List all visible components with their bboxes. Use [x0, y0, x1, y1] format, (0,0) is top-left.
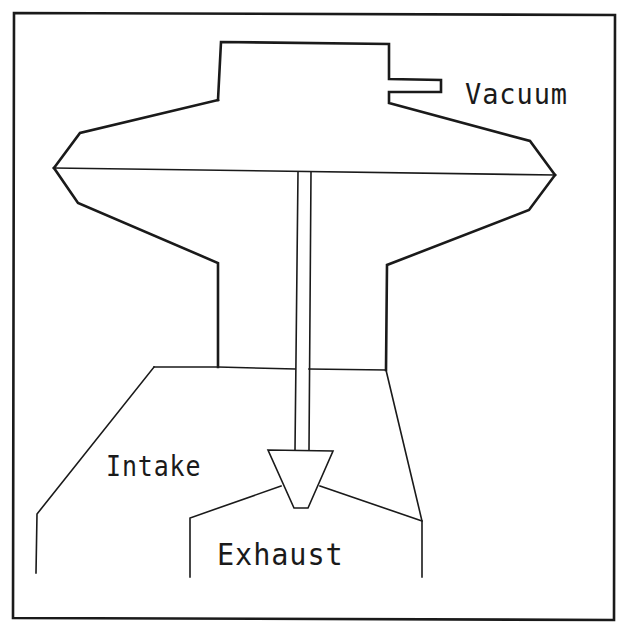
intake-passage-right-wall [386, 370, 422, 577]
intake-label: Intake [106, 452, 201, 481]
valve-stem-right [309, 172, 311, 450]
vacuum-chamber-upper-left [54, 100, 218, 168]
exhaust-label: Exhaust [217, 539, 344, 570]
exhaust-roof-right [320, 486, 422, 521]
vacuum-label: Vacuum [465, 80, 568, 109]
valve-head [268, 450, 333, 508]
intake-passage-top [154, 367, 295, 369]
intake-passage-top-right [309, 369, 386, 370]
diagram-canvas: Vacuum Intake Exhaust [0, 0, 628, 626]
valve-stem-left [295, 172, 298, 450]
diaphragm [54, 168, 555, 175]
housing-lower-left [54, 168, 218, 367]
housing-lower-right [386, 175, 555, 370]
